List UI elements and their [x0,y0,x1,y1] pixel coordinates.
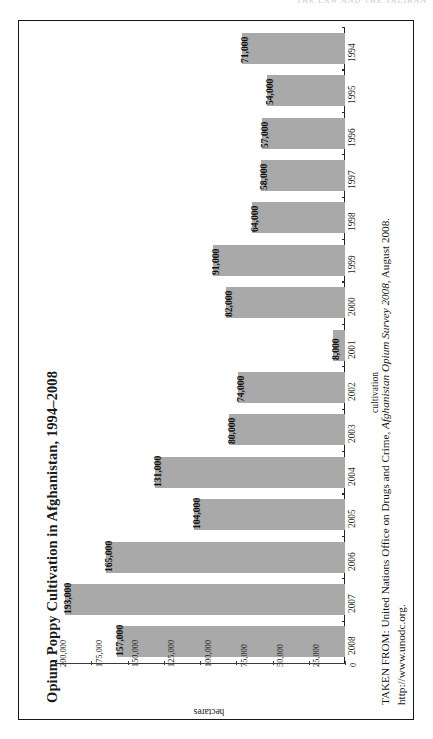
bar-value-label: 54,000 [264,79,275,105]
bar-1995 [267,75,345,106]
category-label-1999: 1999 [347,255,357,274]
category-label-2006: 2006 [347,552,357,571]
value-tick-label: 150,000 [131,640,140,667]
bar-row: 64,000 [55,202,345,233]
value-tick [273,661,274,665]
bar-2007 [65,584,345,615]
bar-value-label: 131,000 [152,456,163,487]
category-label-2003: 2003 [347,425,357,444]
bar-value-label: 8,000 [330,338,341,360]
bar-2005 [194,499,345,530]
bar-value-label: 57,000 [259,121,270,147]
category-label-1995: 1995 [347,85,357,104]
bar-row: 71,000 [55,33,345,64]
bar-row: 104,000 [55,499,345,530]
bar-2004 [155,457,345,488]
value-tick-label: 200,000 [59,640,68,667]
bar-value-label: 157,000 [114,625,125,656]
bar-1996 [262,118,345,149]
value-tick [128,661,129,665]
value-tick-label: 125,000 [167,640,176,667]
bar-row: 193,000 [55,584,345,615]
value-tick [309,661,310,665]
bar-2006 [106,542,345,573]
source-credit-line-1: TAKEN FROM: United Nations Office on Dru… [379,218,391,705]
value-tick-label: 25,000 [312,644,321,667]
bar-value-label: 193,000 [62,583,73,614]
bar-row: 165,000 [55,542,345,573]
source-credit-url: http://www.unodc.org. [395,604,407,705]
category-label-2008: 2008 [347,637,357,656]
source-title-italic: Afghanistan Opium Survey 2008 [379,283,391,429]
running-head-text: THE LAW AND THE TALIBAN [296,0,427,5]
value-tick [345,661,346,665]
bar-row: 131,000 [55,457,345,488]
value-tick [236,661,237,665]
category-label-2001: 2001 [347,340,357,359]
bar-row: 54,000 [55,75,345,106]
bar-row: 58,000 [55,160,345,191]
figure-title: Opium Poppy Cultivation in Afghanistan, … [25,31,51,711]
value-tick-label: 175,000 [95,640,104,667]
page-running-head: THE LAW AND THE TALIBAN [0,0,433,14]
value-tick-label: 100,000 [204,640,213,667]
category-label-1998: 1998 [347,213,357,232]
category-label-1994: 1994 [347,43,357,62]
bar-row: 8,000 [55,330,345,361]
bar-row: 74,000 [55,372,345,403]
category-label-2000: 2000 [347,297,357,316]
value-tick-label: 0 [349,663,358,667]
value-axis-tick-labels: 025,00050,00075,000100,000125,000150,000… [55,665,347,705]
value-tick [91,661,92,665]
source-prefix: TAKEN FROM: United Nations Office on Dru… [379,429,391,705]
bar-value-label: 104,000 [191,498,202,529]
value-axis-title-text: hectares [139,707,279,717]
bar-value-label: 74,000 [235,376,246,402]
bar-row: 57,000 [55,118,345,149]
bar-1997 [261,160,345,191]
bar-row: 82,000 [55,287,345,318]
value-tick-label: 75,000 [240,644,249,667]
bar-1999 [213,245,345,276]
chart-plot-area: 71,00054,00057,00058,00064,00091,00082,0… [55,27,345,663]
bar-1998 [252,202,345,233]
value-axis-title: hectares [139,707,279,720]
category-label-2005: 2005 [347,509,357,528]
bar-2000 [226,287,345,318]
bar-2002 [238,372,345,403]
category-label-1997: 1997 [347,170,357,189]
bar-row: 80,000 [55,414,345,445]
bar-2003 [229,414,345,445]
value-tick [55,661,56,665]
bar-value-label: 71,000 [239,36,250,62]
bar-2008 [117,626,345,657]
bar-value-label: 58,000 [258,164,269,190]
category-label-1996: 1996 [347,128,357,147]
value-tick [164,661,165,665]
bar-value-label: 91,000 [210,248,221,274]
bar-value-label: 80,000 [226,418,237,444]
category-label-2004: 2004 [347,467,357,486]
category-label-2007: 2007 [347,594,357,613]
value-tick-label: 50,000 [276,644,285,667]
bar-value-label: 82,000 [223,291,234,317]
bar-row: 91,000 [55,245,345,276]
source-credit: TAKEN FROM: United Nations Office on Dru… [371,29,411,713]
value-tick [200,661,201,665]
source-suffix: , August 2008. [379,218,391,283]
bar-value-label: 165,000 [103,540,114,571]
bar-value-label: 64,000 [249,206,260,232]
figure-frame: Opium Poppy Cultivation in Afghanistan, … [18,20,414,720]
bar-1994 [242,33,345,64]
category-label-2002: 2002 [347,382,357,401]
